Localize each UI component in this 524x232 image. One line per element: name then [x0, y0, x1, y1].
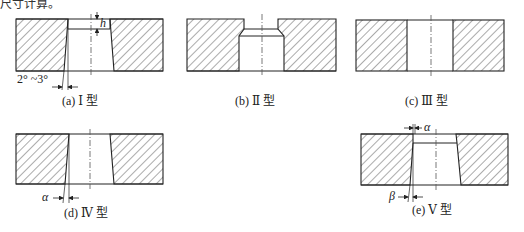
caption-a: (a) Ⅰ 型 — [62, 94, 98, 108]
label-angle-range: 2° ~3° — [17, 73, 57, 85]
figure-e-type-5 — [361, 124, 508, 202]
label-beta-e: β — [389, 190, 395, 203]
figure-c-type-3 — [356, 15, 504, 76]
caption-c: (c) Ⅲ 型 — [405, 94, 448, 108]
caption-b: (b) Ⅱ 型 — [235, 94, 275, 108]
label-alpha-d: α — [42, 191, 48, 204]
figure-d-type-4 — [16, 129, 163, 203]
diagram-canvas — [0, 0, 524, 232]
header-fragment: 尺寸计算。 — [0, 0, 60, 12]
caption-e: (e) Ⅴ 型 — [412, 203, 452, 217]
caption-d: (d) Ⅳ 型 — [64, 206, 108, 220]
die-hole-types-diagram: 尺寸计算。 h 2° ~3° (a) Ⅰ 型 (b) Ⅱ 型 (c) Ⅲ 型 α… — [0, 0, 524, 232]
label-alpha-e: α — [424, 121, 430, 134]
label-angle: 2° ~3° — [17, 72, 48, 86]
figure-b-type-2 — [187, 14, 336, 76]
label-h: h — [100, 17, 106, 30]
